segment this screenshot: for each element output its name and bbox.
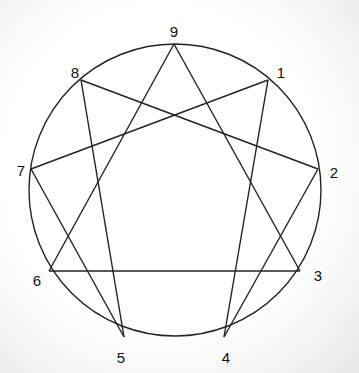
outer-circle: [29, 44, 321, 336]
line-6-9: [49, 44, 174, 271]
point-label-3: 3: [314, 267, 322, 284]
point-label-2: 2: [330, 164, 338, 181]
enneagram-diagram: 912345678: [0, 0, 359, 373]
line-7-1: [31, 80, 268, 169]
point-label-7: 7: [17, 162, 25, 179]
point-label-9: 9: [170, 23, 178, 40]
point-label-8: 8: [71, 64, 79, 81]
point-label-6: 6: [33, 272, 41, 289]
point-label-5: 5: [117, 349, 125, 366]
line-2-8: [81, 80, 318, 169]
point-label-1: 1: [277, 64, 285, 81]
point-label-4: 4: [222, 349, 230, 366]
